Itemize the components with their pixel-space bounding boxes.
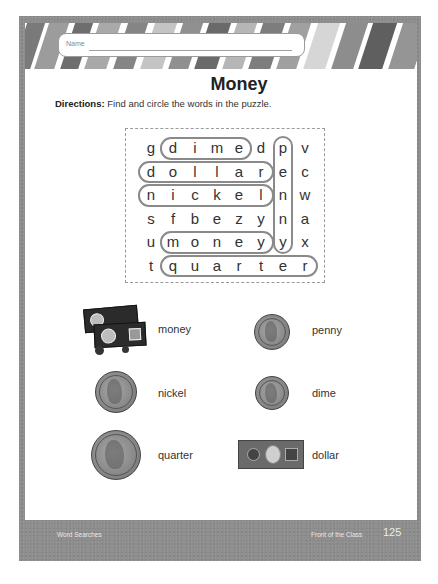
word-circle-dime: [160, 137, 252, 160]
puzzle-cell[interactable]: z: [228, 207, 250, 230]
name-field[interactable]: Name: [58, 33, 305, 57]
word-search-puzzle: gdimedpvdollarecnickelnwsfbezynaumoneyyx…: [125, 128, 325, 283]
name-write-line: [89, 50, 292, 51]
puzzle-cell[interactable]: y: [250, 207, 272, 230]
penny-coin-icon: [254, 314, 290, 350]
puzzle-cell[interactable]: x: [294, 230, 316, 253]
name-label: Name: [66, 40, 85, 47]
item-label: dime: [312, 387, 336, 399]
footer-section: Word Searches: [57, 531, 102, 538]
word-circle-quarter: [160, 255, 318, 278]
item-label: quarter: [158, 449, 193, 461]
puzzle-cell[interactable]: u: [140, 230, 162, 253]
item-label: money: [158, 323, 191, 335]
item-label: dollar: [312, 449, 339, 461]
puzzle-cell[interactable]: g: [140, 136, 162, 159]
puzzle-cell[interactable]: a: [294, 207, 316, 230]
puzzle-cell[interactable]: e: [206, 207, 228, 230]
directions-label: Directions:: [55, 98, 105, 109]
word-circle-penny: [273, 136, 293, 254]
word-circle-nickel: [138, 184, 274, 207]
nickel-coin-icon: [95, 371, 137, 413]
puzzle-cell[interactable]: s: [140, 207, 162, 230]
puzzle-cell[interactable]: b: [184, 207, 206, 230]
puzzle-cell[interactable]: v: [294, 136, 316, 159]
footer-publisher: Front of the Class: [311, 531, 362, 538]
puzzle-cell[interactable]: f: [162, 207, 184, 230]
item-label: penny: [312, 324, 342, 336]
puzzle-cell[interactable]: c: [294, 160, 316, 183]
page-number: 125: [383, 526, 401, 538]
word-circle-money: [160, 231, 274, 254]
puzzle-cell[interactable]: w: [294, 183, 316, 206]
money-stack-icon-front: [93, 322, 146, 349]
dollar-bill-icon: [238, 440, 304, 469]
puzzle-cell[interactable]: t: [140, 254, 162, 277]
dime-coin-icon: [255, 376, 289, 410]
directions: Directions: Find and circle the words in…: [55, 98, 272, 109]
directions-text: Find and circle the words in the puzzle.: [105, 98, 272, 109]
quarter-coin-icon: [91, 430, 141, 480]
page-title: Money: [0, 74, 438, 95]
puzzle-cell[interactable]: d: [250, 136, 272, 159]
word-circle-dollar: [138, 161, 274, 184]
item-label: nickel: [158, 387, 186, 399]
